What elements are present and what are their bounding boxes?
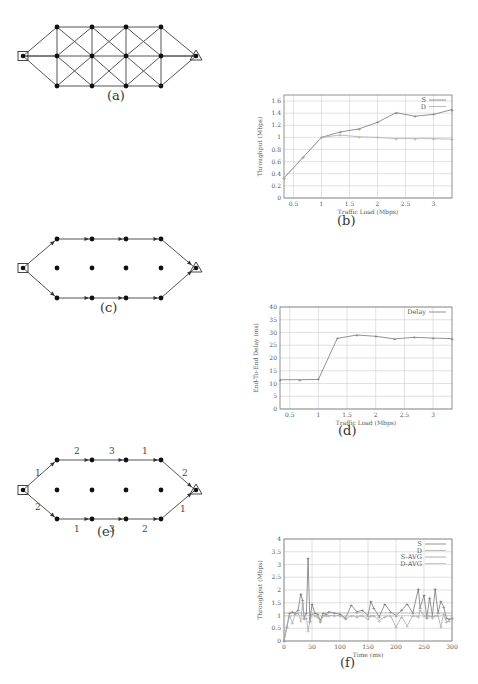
channel-label-upper: 1 [35,468,41,478]
data-point-marker: + [285,624,289,630]
chart-b-throughput: 00.20.40.60.811.21.41.60.511.522.53Traff… [240,80,478,230]
relay-node [159,296,164,301]
mesh-edges [23,27,196,86]
source-node-dot [21,266,26,271]
y-tick-label: 30 [269,329,277,336]
relay-node [159,488,164,493]
relay-node [55,458,60,463]
data-point-marker: + [332,613,336,619]
channel-label-upper: 2 [74,446,80,456]
data-point-marker: + [278,377,282,383]
relay-node [124,266,129,271]
y-axis-label: Throughput (Mbps) [256,117,264,177]
data-point-marker: + [431,335,435,341]
x-tick-label: 100 [334,643,346,650]
y-tick-label: 4 [277,535,281,542]
data-point-marker: + [297,377,301,383]
relay-node [124,458,129,463]
y-tick-label: 1.2 [271,121,281,128]
source-node-dot [21,54,26,59]
chart-f-throughput-time: 00.511.522.533.54050100150200250300Time … [240,525,478,684]
data-point-marker: + [422,592,426,598]
data-point-marker: + [282,175,286,181]
caption-e: (e) [97,524,115,539]
data-point-marker: + [375,134,379,140]
y-axis-label: End-To-End Delay (ms) [252,323,260,393]
plot-frame [284,95,452,198]
arrow-head-icon [154,458,159,462]
x-tick-label: 0 [282,643,286,650]
y-tick-label: 20 [269,354,277,361]
relay-node [55,25,60,30]
relay-node [90,84,95,89]
data-point-marker: + [413,113,417,119]
y-tick-label: 25 [269,341,277,348]
channel-label-upper: 3 [109,446,115,456]
data-point-marker: + [355,614,359,620]
relay-node [55,84,60,89]
legend-entry: D-AVG [400,560,422,568]
y-tick-label: 1.6 [271,97,281,104]
caption-f: (f) [340,655,355,670]
y-tick-label: 2.5 [271,573,281,580]
relay-node [90,517,95,522]
channel-label-lower: 1 [74,524,80,534]
data-point-marker: + [394,110,398,116]
y-tick-label: 40 [269,303,277,310]
data-point-marker: + [299,591,303,597]
x-tick-label: 2.5 [400,411,410,418]
relay-node [55,266,60,271]
data-point-marker: + [450,107,454,113]
y-tick-label: 15 [269,367,277,374]
relay-node [124,517,129,522]
data-point-marker: + [416,614,420,620]
data-point-marker: + [319,134,323,140]
relay-node [90,488,95,493]
destination-node-dot [194,488,199,493]
relay-node [159,25,164,30]
relay-node [55,296,60,301]
data-point-marker: + [371,613,375,619]
series-line [284,135,452,178]
arrow-head-icon [85,237,90,241]
legend-entry: D [421,103,426,111]
mesh-link [161,56,196,86]
series-line [284,110,452,179]
data-point-marker: + [360,613,364,619]
data-point-marker: + [287,613,291,619]
data-point-marker: + [338,132,342,138]
data-point-marker: + [355,332,359,338]
mesh-link [161,27,196,56]
relay-node [90,237,95,242]
y-tick-label: 10 [269,380,277,387]
arrow-head-icon [85,296,90,300]
data-point-marker: + [300,600,304,606]
channel-assignment-graph: 1231221321 [18,446,202,534]
data-point-marker: + [413,136,417,142]
data-point-marker: + [416,586,420,592]
x-tick-label: 2.5 [401,200,411,207]
relay-node [159,84,164,89]
x-tick-label: 50 [308,643,316,650]
source-node-dot [21,488,26,493]
data-point-marker: + [441,604,445,610]
data-point-marker: + [393,336,397,342]
y-tick-label: 2 [277,586,281,593]
destination-node-dot [194,266,199,271]
x-tick-label: 250 [418,643,430,650]
data-point-marker: + [343,616,347,622]
relay-node [159,517,164,522]
data-point-marker: + [450,136,454,142]
y-tick-label: 1 [277,612,281,619]
x-tick-label: 300 [446,643,458,650]
arrow-head-icon [119,517,124,521]
data-point-marker: + [374,333,378,339]
y-tick-label: 0 [277,194,281,201]
y-tick-label: 0.4 [271,170,281,177]
y-tick-label: 0.2 [271,182,281,189]
data-point-marker: + [394,624,398,630]
diagram-e: 1231221321 (e) [0,410,240,540]
y-tick-label: 0 [273,405,277,412]
data-point-marker: + [394,136,398,142]
data-point-marker: + [394,613,398,619]
